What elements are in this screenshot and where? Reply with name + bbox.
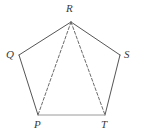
- pentagon-diagram-canvas: [0, 0, 141, 135]
- pentagon-diagonals: [38, 22, 105, 115]
- pentagon-edges: [19, 22, 120, 115]
- vertex-label-T: T: [101, 119, 107, 130]
- diagonal-RP: [38, 22, 71, 115]
- edge-RS: [71, 22, 120, 55]
- pentagon-figure: R Q S P T: [0, 0, 141, 135]
- diagonal-RT: [71, 22, 105, 115]
- vertex-label-P: P: [34, 119, 41, 130]
- edge-PQ: [19, 55, 38, 115]
- vertex-label-Q: Q: [6, 49, 14, 60]
- vertex-label-S: S: [124, 49, 130, 60]
- edge-ST: [105, 55, 120, 115]
- vertex-label-R: R: [66, 3, 73, 14]
- edge-QR: [19, 22, 71, 55]
